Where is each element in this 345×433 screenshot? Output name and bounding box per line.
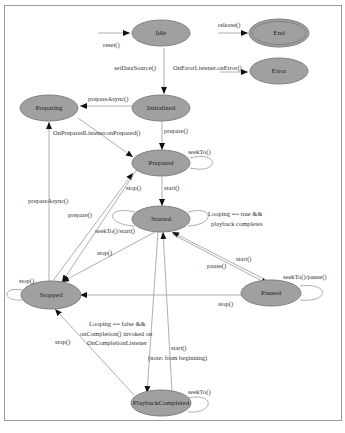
edge-stop-prepared	[62, 165, 140, 282]
node-label: End	[273, 29, 285, 37]
label-start-pc-2: (note: from beginning)	[148, 354, 207, 362]
label-start: start()	[164, 184, 180, 192]
node-label: Stopped	[40, 291, 63, 299]
node-stopped: Stopped	[21, 281, 81, 309]
node-label: Prepared	[149, 159, 174, 167]
label-prepare-stopped: prepare()	[68, 211, 92, 219]
label-on-prepared: OnPreparedListener.onPrepared()	[53, 129, 141, 137]
node-started: Started	[132, 206, 190, 232]
label-start-pc-1: start()	[171, 344, 187, 352]
node-preparing: Preparing	[20, 95, 78, 121]
edge-seek-prepared	[190, 156, 213, 169]
node-initialized: Initialized	[132, 95, 190, 121]
edge-looping-true	[188, 211, 208, 226]
label-looping-false-1: Looping == false &&	[89, 320, 146, 327]
edge-seek-pause	[300, 285, 323, 300]
label-seek-pause: seekTo()/pause()	[283, 273, 327, 281]
edge-stop-self	[7, 289, 22, 300]
label-seek-pc: seekTo()	[188, 388, 211, 396]
label-stop-started: stop()	[97, 249, 112, 257]
label-looping-false-3: OnCompletionListener	[87, 339, 148, 346]
label-looping-false-2: onCompletion() invoked on	[80, 330, 153, 338]
label-stop-self: stop()	[19, 277, 34, 285]
label-set-data-source: setDataSource()	[114, 64, 156, 72]
node-playbackcompleted: PlaybackCompleted	[131, 390, 191, 416]
label-looping-true-2: playback completes	[211, 220, 263, 227]
node-idle: Idle	[132, 20, 190, 46]
label-stop-pc: stop()	[55, 338, 70, 346]
label-looping-true-1: Looping == true &&	[208, 210, 262, 217]
edge-stop-started	[62, 232, 155, 282]
label-prepare-async: prepareAsync()	[88, 95, 128, 103]
label-prepare: prepare()	[164, 127, 188, 135]
edge-pause	[172, 234, 268, 284]
node-label: PlaybackCompleted	[133, 399, 190, 407]
edge-start-paused	[172, 232, 268, 281]
label-pause: pause()	[207, 262, 226, 270]
edge-on-prepared	[78, 118, 133, 157]
node-label: Started	[151, 215, 171, 223]
node-label: Error	[272, 67, 287, 75]
label-start-paused: start()	[236, 255, 252, 263]
node-end: End	[249, 19, 309, 47]
label-seek-start: seekTo()/start()	[95, 227, 135, 235]
label-prepare-async-stopped: prepareAsync()	[28, 197, 68, 205]
node-prepared: Prepared	[132, 150, 190, 176]
label-on-error: OnErrorListener.onError()	[173, 64, 242, 72]
node-label: Paused	[261, 289, 281, 297]
node-label: Initialized	[147, 104, 176, 112]
label-reset: reset()	[103, 41, 120, 49]
edge-looping-false	[147, 232, 158, 393]
state-diagram: Idle End Error Preparing Initialized Pre…	[0, 0, 345, 433]
label-stop-paused: stop()	[218, 300, 233, 308]
label-stop-prepared: stop()	[126, 184, 141, 192]
node-label: Idle	[156, 29, 167, 37]
node-error: Error	[250, 58, 308, 84]
label-seek-prepared: seekTo()	[188, 148, 211, 156]
node-paused: Paused	[241, 280, 301, 306]
node-label: Preparing	[35, 104, 63, 112]
label-release: release()	[218, 21, 240, 29]
edge-start-pc	[163, 232, 172, 392]
